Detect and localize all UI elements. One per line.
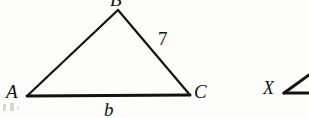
side-length-label-ac: b <box>104 100 114 118</box>
variable-label-x: X <box>263 79 274 97</box>
vertex-label-c: C <box>194 82 207 101</box>
angle-symbol-icon <box>284 75 309 93</box>
vertex-label-a: A <box>6 82 18 101</box>
scan-artifact <box>3 104 6 111</box>
vertex-label-b: B <box>110 0 122 9</box>
scan-artifact <box>17 106 19 110</box>
triangle-drawing <box>0 0 309 118</box>
triangle-side-ab <box>27 10 118 96</box>
triangle-side-bc <box>118 10 190 95</box>
geometry-figure: A B C 7 b X <box>0 0 309 118</box>
scan-artifact <box>10 103 14 111</box>
side-length-label-bc: 7 <box>158 29 168 48</box>
triangle-side-ac <box>27 95 190 96</box>
